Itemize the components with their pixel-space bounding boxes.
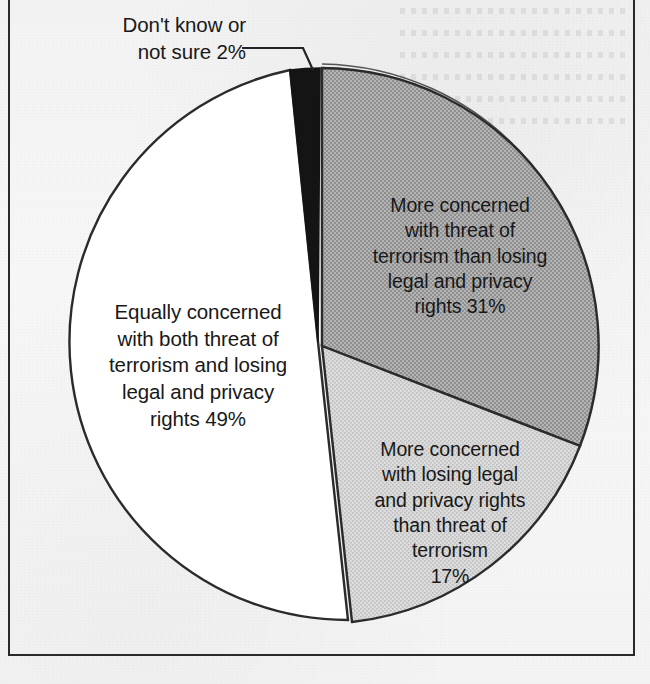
- pie-label-terrorism-more: More concerned with threat of terrorism …: [352, 193, 568, 320]
- pie-label-equally-concerned: Equally concerned with both threat of te…: [84, 299, 312, 432]
- figure-page: Don't know or not sure 2% More concerned…: [0, 0, 650, 684]
- pie-label-privacy-more: More concerned with losing legal and pri…: [352, 437, 548, 589]
- pie-chart: Don't know or not sure 2% More concerned…: [0, 0, 650, 684]
- pie-label-dont-know: Don't know or not sure 2%: [60, 12, 246, 65]
